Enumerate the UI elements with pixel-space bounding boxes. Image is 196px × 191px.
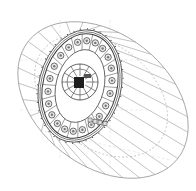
spoke-line: [23, 100, 38, 102]
bolt-dot: [44, 125, 45, 126]
hub-detail: [84, 74, 91, 78]
bolt-dot: [122, 87, 123, 88]
spoke-line: [18, 68, 40, 78]
bolt-dot: [98, 132, 99, 133]
hub-core: [74, 77, 84, 88]
bolt-dot: [59, 139, 60, 140]
bolt-dot: [121, 61, 122, 62]
spoke-line: [30, 112, 40, 116]
bolt-dot: [92, 137, 93, 138]
hole-center: [60, 54, 62, 56]
bolt-dot: [80, 29, 81, 30]
bolt-dot: [37, 102, 38, 103]
bolt-dot: [53, 136, 54, 137]
hole-center: [111, 79, 113, 81]
hole-center: [76, 41, 78, 43]
bolt-dot: [118, 53, 119, 54]
bolt-dot: [49, 51, 50, 52]
hole-center: [64, 128, 66, 130]
bolt-dot: [117, 104, 118, 105]
bolt-dot: [65, 142, 66, 143]
spoke-line: [41, 122, 44, 131]
hole-center: [101, 47, 103, 49]
hole-center: [47, 90, 49, 92]
bolt-dot: [114, 112, 115, 113]
bolt-dot: [38, 110, 39, 111]
hole-center: [105, 105, 107, 107]
detail-block: [103, 122, 107, 126]
bolt-dot: [105, 35, 106, 36]
bolt-dot: [41, 118, 42, 119]
detail-block: [88, 118, 92, 122]
bolt-dot: [122, 78, 123, 79]
bolt-dot: [45, 58, 46, 59]
bolt-dot: [39, 75, 40, 76]
hole-center: [49, 77, 51, 79]
bolt-dot: [122, 69, 123, 70]
bolt-dot: [41, 67, 42, 68]
spoke-line: [28, 42, 48, 57]
bolt-dot: [110, 40, 111, 41]
spoke-line: [116, 50, 165, 69]
hole-center: [109, 92, 111, 94]
bolt-dot: [115, 46, 116, 47]
spoke-line: [19, 83, 39, 90]
hole-center: [86, 40, 88, 42]
bolt-dot: [87, 28, 88, 29]
bolt-dot: [104, 127, 105, 128]
bolt-dot: [109, 120, 110, 121]
bolt-dot: [73, 31, 74, 32]
spoke-line: [120, 94, 188, 132]
hole-center: [98, 115, 100, 117]
spoke-line: [51, 25, 62, 39]
bolt-dot: [72, 143, 73, 144]
engineering-drawing: [0, 0, 196, 191]
hole-center: [94, 42, 96, 44]
bolt-dot: [67, 34, 68, 35]
spoke-line: [88, 26, 101, 30]
bolt-dot: [120, 96, 121, 97]
hole-center: [81, 129, 83, 131]
hole-center: [72, 130, 74, 132]
hole-center: [90, 123, 92, 125]
bolt-dot: [85, 140, 86, 141]
spoke-line: [122, 71, 183, 101]
bolt-dot: [100, 31, 101, 32]
detail-block: [93, 119, 97, 123]
hole-center: [51, 114, 53, 116]
spoke-line: [66, 22, 70, 34]
bolt-dot: [36, 93, 37, 94]
bolt-dot: [93, 29, 94, 30]
bolt-dot: [55, 44, 56, 45]
hole-center: [56, 122, 58, 124]
bolt-dot: [61, 38, 62, 39]
detail-block: [98, 120, 102, 124]
hole-center: [47, 103, 49, 105]
spoke-line: [38, 32, 55, 47]
hole-center: [107, 56, 109, 58]
drawing-canvas: [0, 0, 196, 191]
bolt-dot: [79, 142, 80, 143]
hole-center: [68, 46, 70, 48]
bolt-dot: [48, 131, 49, 132]
bolt-dot: [37, 84, 38, 85]
hole-center: [110, 67, 112, 69]
hole-center: [53, 65, 55, 67]
